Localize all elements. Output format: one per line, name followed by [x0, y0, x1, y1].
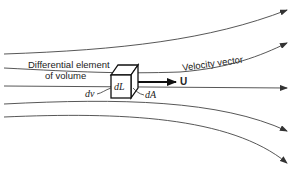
- streamline-4: [4, 101, 287, 131]
- differential-element-label: Differential element: [28, 60, 110, 70]
- dv-leader: [97, 88, 111, 94]
- dL-label: dL: [114, 82, 125, 92]
- of-volume-label: of volume: [45, 71, 86, 81]
- streamline-1: [4, 10, 287, 54]
- dv-label: dv: [85, 89, 94, 99]
- dA-label: dA: [145, 90, 156, 100]
- streamline-5: [4, 115, 287, 163]
- u-label: U: [180, 77, 187, 87]
- streamline-3: [4, 86, 287, 88]
- flow-diagram: Differential element of volume Velocity …: [0, 0, 295, 171]
- diagram-graphics: [0, 0, 295, 171]
